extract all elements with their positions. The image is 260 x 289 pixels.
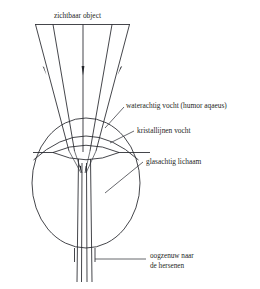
lens-upper-arc [53,145,119,152]
leader-lens [110,131,134,143]
ray-arrowhead-left [43,66,47,75]
ray-arrowhead-center [82,66,85,76]
label-aqueous-humor: waterachtig vocht (humor aqaeus) [126,101,227,110]
optic-nerve-line-4 [91,159,93,282]
refracted-ray-left-outer [69,151,81,173]
optic-nerve-group [75,159,96,282]
optic-nerve-line-2 [82,163,83,282]
label-optic-nerve-line2: de hersenen [150,262,185,270]
label-optic-nerve-line1: oogzenuw naar [150,252,194,260]
label-vitreous-body: glasachtig lichaam [146,157,201,166]
labels-group: zichtbaar object waterachtig vocht (humo… [54,11,227,270]
leader-vitreous [105,162,143,193]
light-ray-bundle [36,25,130,153]
label-visible-object: zichtbaar object [54,11,102,20]
eye-diagram-figure: zichtbaar object waterachtig vocht (humo… [0,0,260,289]
leader-aqueous [105,107,124,128]
cornea-arc [34,136,139,160]
refracted-ray-bundle [69,151,96,173]
aqueous-humor-group [34,136,139,160]
eye-cross-section-diagram: zichtbaar object waterachtig vocht (humo… [0,0,260,289]
eyeball-group [32,118,140,248]
label-crystalline-lens: kristallijnen vocht [137,126,192,135]
optic-nerve-line-1 [77,159,79,282]
lens-lower-arc [53,153,119,160]
optic-nerve-line-3 [87,163,88,282]
eyeball-outline [32,118,140,248]
